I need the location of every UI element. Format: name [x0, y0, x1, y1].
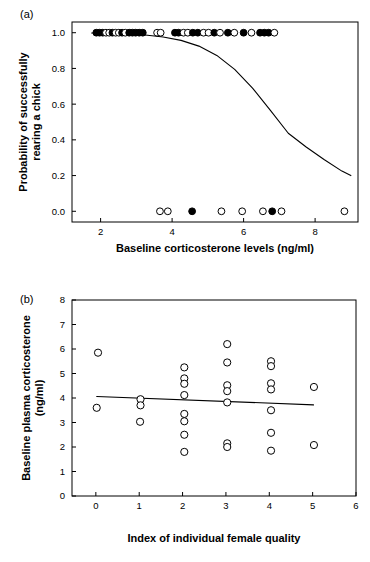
data-point-open [248, 29, 255, 36]
panel-a-y-axis-title: Probability of successfullyrearing a chi… [17, 51, 42, 191]
panel-b-x-tick-labels: 0123456 [93, 500, 358, 511]
panel-b-y-axis-title: Baseline plasma corticosterone(ng/ml) [20, 315, 45, 481]
data-point-open [181, 380, 188, 387]
panel-b-ticks [72, 300, 356, 496]
logistic-fit-curve [92, 33, 351, 176]
data-point-open [181, 448, 188, 455]
data-point-open [267, 407, 274, 414]
data-point-open [164, 208, 171, 215]
data-point-open [267, 363, 274, 370]
axes-frame [72, 22, 358, 222]
panel-b-label: (b) [20, 293, 33, 305]
data-point-filled [224, 29, 231, 36]
data-point-open [218, 208, 225, 215]
data-point-open [181, 364, 188, 371]
y-tick-label: 7 [60, 319, 65, 330]
data-point-filled [189, 208, 196, 215]
y-tick-label: 0.0 [52, 206, 65, 217]
y-tick-label: 0.4 [52, 134, 65, 145]
y-tick-label: 0.2 [52, 170, 65, 181]
data-point-filled [139, 29, 146, 36]
data-point-open [239, 208, 246, 215]
x-tick-label: 2 [98, 226, 103, 237]
x-tick-label: 0 [93, 500, 98, 511]
panel-b-axes-frame [72, 300, 356, 496]
panel-a-y-tick-labels: 0.00.20.40.60.81.0 [52, 27, 65, 217]
panel-a-x-tick-labels: 2468 [98, 226, 318, 237]
data-point-open [310, 383, 317, 390]
y-tick-label: 2 [60, 441, 65, 452]
data-point-open [94, 349, 101, 356]
y-tick-label: 0 [60, 490, 65, 501]
x-tick-label: 1 [137, 500, 142, 511]
panel-b-x-axis-title: Index of individual female quality [128, 532, 302, 544]
figure-container: (a) 2468 0.00.20.40.60.81.0 Baseline cor… [0, 0, 370, 562]
y-axis-title-line: Baseline plasma corticosterone [20, 315, 32, 481]
x-tick-label: 3 [223, 500, 228, 511]
y-tick-label: 3 [60, 417, 65, 428]
y-tick-label: 1 [60, 466, 65, 477]
y-axis-title-line: rearing a chick [30, 82, 42, 161]
x-tick-label: 6 [241, 226, 246, 237]
data-point-open [224, 359, 231, 366]
y-tick-label: 0.6 [52, 99, 65, 110]
x-axis-title: Index of individual female quality [128, 532, 302, 544]
data-point-open [278, 208, 285, 215]
data-point-open [181, 418, 188, 425]
panel-a-axes-frame [72, 22, 358, 222]
x-tick-label: 4 [169, 226, 174, 237]
panel-a-ticks [72, 33, 315, 222]
axes-frame [72, 300, 356, 496]
x-tick-label: 4 [267, 500, 272, 511]
data-point-open [271, 29, 278, 36]
data-point-open [181, 431, 188, 438]
data-point-open [267, 386, 274, 393]
x-tick-label: 5 [310, 500, 315, 511]
panel-b-fit-line [97, 397, 314, 405]
y-tick-label: 0.8 [52, 63, 65, 74]
x-axis-title: Baseline corticosterone levels (ng/ml) [116, 242, 314, 254]
y-axis-title-line: (ng/ml) [33, 379, 45, 416]
x-tick-label: 6 [353, 500, 358, 511]
data-point-open [181, 410, 188, 417]
panel-a-x-axis-title: Baseline corticosterone levels (ng/ml) [116, 242, 314, 254]
y-tick-label: 5 [60, 368, 65, 379]
panel-a-data-points [93, 29, 348, 214]
data-point-filled [240, 29, 247, 36]
panel-b: (b) 0123456 012345678 Index of individua… [0, 281, 370, 562]
data-point-open [157, 29, 164, 36]
data-point-open [310, 441, 317, 448]
y-tick-label: 6 [60, 343, 65, 354]
data-point-open [157, 208, 164, 215]
data-point-open [231, 29, 238, 36]
data-point-open [260, 208, 267, 215]
panel-a-label: (a) [20, 8, 33, 20]
data-point-open [267, 429, 274, 436]
x-tick-label: 8 [312, 226, 317, 237]
data-point-open [224, 399, 231, 406]
x-tick-label: 2 [180, 500, 185, 511]
panel-b-y-tick-labels: 012345678 [60, 294, 65, 501]
panel-a: (a) 2468 0.00.20.40.60.81.0 Baseline cor… [0, 0, 370, 281]
panel-b-chart: (b) 0123456 012345678 Index of individua… [0, 281, 370, 562]
y-tick-label: 1.0 [52, 27, 65, 38]
data-point-open [93, 404, 100, 411]
data-point-open [137, 402, 144, 409]
y-axis-title-line: Probability of successfully [17, 51, 29, 191]
data-point-open [181, 391, 188, 398]
data-point-open [341, 208, 348, 215]
data-point-open [217, 29, 224, 36]
data-point-open [224, 341, 231, 348]
regression-line [97, 397, 314, 405]
data-point-open [224, 388, 231, 395]
data-point-open [224, 443, 231, 450]
panel-a-fit-curve [92, 33, 351, 176]
data-point-filled [269, 208, 276, 215]
y-tick-label: 8 [60, 294, 65, 305]
y-tick-label: 4 [60, 392, 65, 403]
panel-a-chart: (a) 2468 0.00.20.40.60.81.0 Baseline cor… [0, 0, 370, 281]
data-point-open [136, 418, 143, 425]
data-point-open [267, 447, 274, 454]
